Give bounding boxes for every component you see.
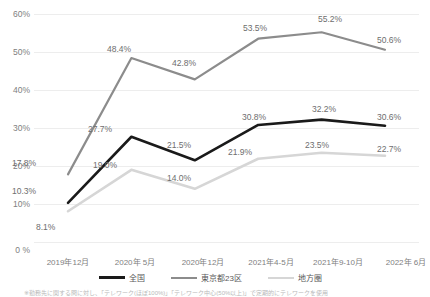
data-label-zenkoku-2: 21.5% bbox=[167, 140, 191, 150]
chart-footnote: ※勤務先に関する問に対し、「テレワーク(ほぼ100%)」「テレワーク中心(50%… bbox=[24, 288, 424, 297]
data-label-chihoken-3: 21.9% bbox=[228, 147, 252, 157]
legend-label-tokyo23: 東京都23区 bbox=[201, 272, 242, 283]
data-label-zenkoku-3: 30.8% bbox=[242, 112, 266, 122]
data-label-tokyo23-3: 53.5% bbox=[243, 23, 267, 33]
legend-swatch-tokyo23 bbox=[171, 277, 197, 279]
data-label-zenkoku-0: 10.3% bbox=[12, 186, 36, 196]
data-label-chihoken-5: 22.7% bbox=[377, 144, 401, 154]
legend-label-chihoken: 地方圏 bbox=[298, 272, 322, 283]
data-label-tokyo23-1: 48.4% bbox=[107, 44, 131, 54]
data-label-zenkoku-4: 32.2% bbox=[312, 104, 336, 114]
data-label-tokyo23-4: 55.2% bbox=[318, 14, 342, 24]
data-label-zenkoku-5: 30.6% bbox=[377, 112, 401, 122]
legend-swatch-chihoken bbox=[268, 277, 294, 279]
data-label-tokyo23-2: 42.8% bbox=[172, 58, 196, 68]
data-label-tokyo23-0: 17.8% bbox=[12, 158, 36, 168]
chart-legend: 全国 東京都23区 地方圏 bbox=[0, 272, 421, 283]
legend-item-chihoken[interactable]: 地方圏 bbox=[268, 272, 322, 283]
legend-item-zenkoku[interactable]: 全国 bbox=[99, 272, 145, 283]
legend-item-tokyo23[interactable]: 東京都23区 bbox=[171, 272, 242, 283]
data-label-tokyo23-5: 50.6% bbox=[377, 35, 401, 45]
data-label-chihoken-1: 19.0% bbox=[93, 160, 117, 170]
data-label-zenkoku-1: 27.7% bbox=[88, 124, 112, 134]
data-label-chihoken-4: 23.5% bbox=[305, 140, 329, 150]
legend-swatch-zenkoku bbox=[99, 276, 125, 279]
legend-label-zenkoku: 全国 bbox=[129, 272, 145, 283]
data-label-chihoken-2: 14.0% bbox=[167, 173, 191, 183]
x-axis-label-5: 2022年 6月 bbox=[366, 256, 430, 267]
data-label-chihoken-0: 8.1% bbox=[36, 222, 55, 232]
